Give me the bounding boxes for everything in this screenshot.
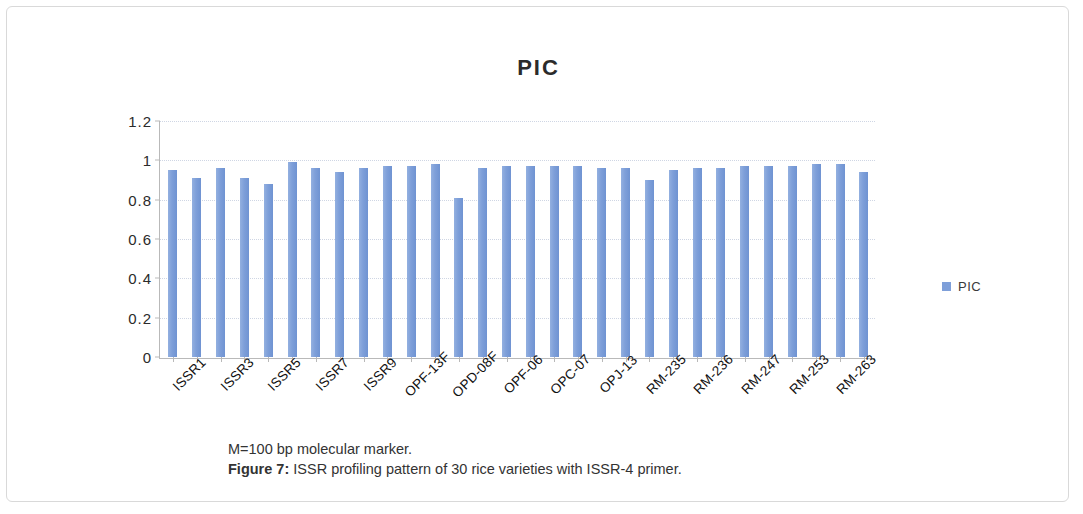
bar-slot xyxy=(590,120,614,357)
x-tick-mark xyxy=(507,357,508,362)
bar-slot xyxy=(423,120,447,357)
x-tick-mark xyxy=(364,357,365,362)
x-tick-mark xyxy=(316,357,317,362)
bar[interactable] xyxy=(550,166,559,357)
bar[interactable] xyxy=(311,168,320,357)
legend-label-pic: PIC xyxy=(958,279,981,294)
bar[interactable] xyxy=(526,166,535,357)
y-tick-label: 0 xyxy=(143,349,152,366)
bar[interactable] xyxy=(168,170,177,357)
bar-slot xyxy=(566,120,590,357)
bar[interactable] xyxy=(573,166,582,357)
y-tick-mark xyxy=(155,317,160,318)
bar[interactable] xyxy=(788,166,797,357)
bar[interactable] xyxy=(764,166,773,357)
bar-slot xyxy=(185,120,209,357)
y-tick-mark xyxy=(155,199,160,200)
bar-slot xyxy=(232,120,256,357)
bar-slot xyxy=(518,120,542,357)
x-tick-mark xyxy=(554,357,555,362)
bar[interactable] xyxy=(836,164,845,357)
bar[interactable] xyxy=(502,166,511,357)
bar-slot xyxy=(399,120,423,357)
x-axis-labels: ISSR1ISSR3ISSR5ISSR7ISSR9OPF-13FOPD-08FO… xyxy=(158,363,874,433)
bar-slot xyxy=(828,120,852,357)
bar-series-pic xyxy=(161,120,876,357)
y-tick-label: 1 xyxy=(143,152,152,169)
bar[interactable] xyxy=(454,198,463,357)
bar[interactable] xyxy=(359,168,368,357)
bar[interactable] xyxy=(597,168,606,357)
bar-slot xyxy=(280,120,304,357)
chart-title: PIC xyxy=(7,55,1070,81)
bar-slot xyxy=(447,120,471,357)
plot-area: 00.20.40.60.811.2 xyxy=(159,121,875,359)
bar[interactable] xyxy=(812,164,821,357)
bar-slot xyxy=(733,120,757,357)
y-tick-mark xyxy=(155,239,160,240)
bar-slot xyxy=(495,120,519,357)
bar[interactable] xyxy=(216,168,225,357)
bar-slot xyxy=(709,120,733,357)
bar-slot xyxy=(852,120,876,357)
bar[interactable] xyxy=(264,184,273,357)
bar[interactable] xyxy=(478,168,487,357)
x-tick-mark xyxy=(459,357,460,362)
bar-slot xyxy=(781,120,805,357)
bar[interactable] xyxy=(859,172,868,357)
x-tick-mark xyxy=(792,357,793,362)
y-tick-mark xyxy=(155,357,160,358)
y-tick-mark xyxy=(155,121,160,122)
x-tick-mark xyxy=(268,357,269,362)
x-tick-mark xyxy=(411,357,412,362)
bar-slot xyxy=(757,120,781,357)
x-tick-mark xyxy=(840,357,841,362)
y-tick-label: 1.2 xyxy=(128,113,152,130)
figure-number: Figure 7: xyxy=(228,461,289,477)
y-tick-label: 0.2 xyxy=(128,309,152,326)
bar-slot xyxy=(804,120,828,357)
chart-plot-wrapper: 00.20.40.60.811.2 xyxy=(157,119,877,367)
bar[interactable] xyxy=(621,168,630,357)
y-tick-label: 0.4 xyxy=(128,270,152,287)
bar-slot xyxy=(304,120,328,357)
bar-slot xyxy=(685,120,709,357)
bar-slot xyxy=(352,120,376,357)
bar[interactable] xyxy=(407,166,416,357)
caption-line-2: Figure 7: ISSR profiling pattern of 30 r… xyxy=(228,459,1008,479)
bar[interactable] xyxy=(645,180,654,357)
legend-swatch-pic xyxy=(942,282,951,291)
figure-container: PIC 00.20.40.60.811.2 ISSR1ISSR3ISSR5ISS… xyxy=(6,6,1069,502)
x-tick-mark xyxy=(697,357,698,362)
bar[interactable] xyxy=(693,168,702,357)
bar[interactable] xyxy=(431,164,440,357)
y-tick-label: 0.8 xyxy=(128,191,152,208)
x-tick-mark xyxy=(602,357,603,362)
x-tick-mark xyxy=(173,357,174,362)
bar-slot xyxy=(161,120,185,357)
bar-slot xyxy=(256,120,280,357)
bar-slot xyxy=(542,120,566,357)
x-tick-mark xyxy=(221,357,222,362)
bar-slot xyxy=(614,120,638,357)
y-tick-mark xyxy=(155,278,160,279)
x-tick-mark xyxy=(745,357,746,362)
bar[interactable] xyxy=(716,168,725,357)
y-tick-mark xyxy=(155,160,160,161)
figure-caption: M=100 bp molecular marker. Figure 7: ISS… xyxy=(228,439,1008,479)
bar[interactable] xyxy=(288,162,297,357)
x-tick-mark xyxy=(649,357,650,362)
bar-slot xyxy=(375,120,399,357)
bar[interactable] xyxy=(669,170,678,357)
bar[interactable] xyxy=(335,172,344,357)
bar-slot xyxy=(471,120,495,357)
y-tick-label: 0.6 xyxy=(128,231,152,248)
caption-line-1: M=100 bp molecular marker. xyxy=(228,439,1008,459)
bar[interactable] xyxy=(383,166,392,357)
bar[interactable] xyxy=(740,166,749,357)
bar-slot xyxy=(209,120,233,357)
bar-slot xyxy=(328,120,352,357)
bar[interactable] xyxy=(240,178,249,357)
bar[interactable] xyxy=(192,178,201,357)
bar-slot xyxy=(661,120,685,357)
